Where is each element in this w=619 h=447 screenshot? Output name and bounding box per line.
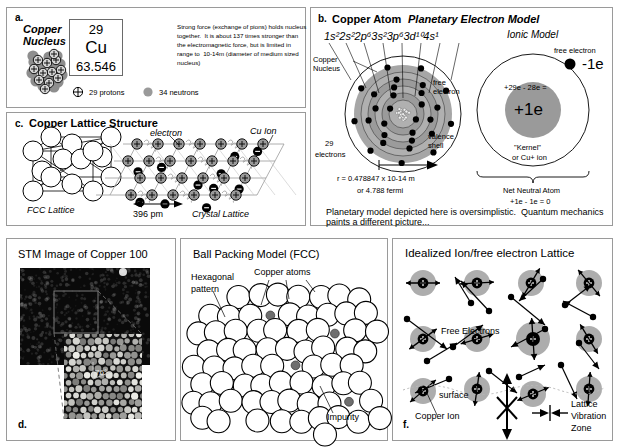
hexagonal-label-line1: Hexagonal <box>191 272 234 282</box>
hexagonal-label-line2: pattern <box>191 284 219 294</box>
lattice-vibration-line3: Zone <box>571 423 592 433</box>
surface-label: surface <box>439 390 469 400</box>
panel-b-copper-atom: b. Copper Atom Planetary Electron Model … <box>310 7 613 226</box>
kernel-charge: +1e <box>514 100 543 120</box>
ionic-model-diagram <box>311 8 614 227</box>
lattice-vibration-line1: Lattice <box>571 399 598 409</box>
net-neutral-line1: Net Neutral Atom <box>503 186 560 195</box>
cu-ion-label: Cu Ion <box>250 126 277 136</box>
panel-a-copper-nucleus: a. Copper Nucleus 29 Cu 63.546 Strong fo… <box>6 7 306 108</box>
panel-b-footnote-line1: Planetary model depicted here is oversim… <box>326 207 604 217</box>
stm-image-graphic <box>7 239 177 442</box>
impurity-label: Impurity <box>327 412 359 422</box>
kernel-label-line1: "Kernel" <box>514 143 541 152</box>
copper-ion-label: Copper Ion <box>415 411 460 421</box>
lattice-spacing-label: 396 pm <box>133 209 163 219</box>
free-electrons-label: Free Electrons <box>441 326 500 336</box>
stm-angle-label: 76° <box>95 368 107 377</box>
lattice-vibration-line2: Vibration <box>571 411 606 421</box>
ionic-free-electron-charge: -1e <box>582 55 604 72</box>
crystal-lattice-caption: Crystal Lattice <box>192 209 249 219</box>
panel-c-copper-lattice-structure: c. Copper Lattice Structure FCC Lattice … <box>6 112 306 226</box>
copper-atoms-label: Copper atoms <box>254 267 311 277</box>
panel-a-legend-icons <box>7 8 307 109</box>
kernel-label-line2: or Cu+ ion <box>512 153 547 162</box>
panel-d-stm-image: STM Image of Copper 100 d. 76° <box>6 238 176 441</box>
ionic-free-electron-label: free electron <box>554 46 596 55</box>
panel-e-ball-packing-model: Ball Packing Model (FCC) e. Hexagonal pa… <box>180 238 388 441</box>
net-neutral-line2: +1e - 1e = 0 <box>510 197 550 206</box>
legend-protons-label: 29 protons <box>89 88 124 97</box>
legend-neutrons-label: 34 neutrons <box>159 88 199 97</box>
electron-label: electron <box>150 128 182 138</box>
ionic-charge-math: +29e - 28e = <box>504 83 547 92</box>
panel-f-idealized-lattice: Idealized Ion/free electron Lattice f. F… <box>392 238 613 441</box>
panel-b-footnote-line2: paints a different picture... <box>326 217 429 227</box>
